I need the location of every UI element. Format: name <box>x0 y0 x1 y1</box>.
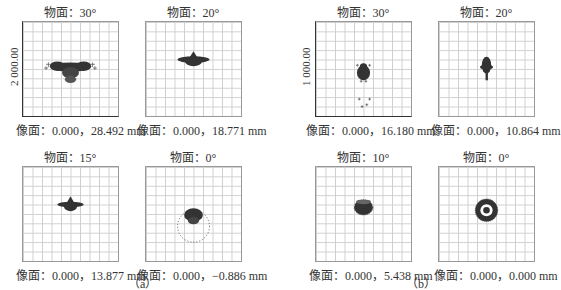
subfigure-label-a: （a） <box>128 274 157 290</box>
subfigure-label-b: （b） <box>406 274 436 290</box>
spot-pattern-ring-with-blob <box>146 167 241 261</box>
spot-diagram <box>315 166 412 262</box>
spot-diagram <box>22 21 119 117</box>
plot-title: 物面：20° <box>438 3 534 21</box>
spot-diagram <box>438 21 535 117</box>
spot-diagram <box>315 21 412 117</box>
plot-title: 物面：15° <box>22 148 118 166</box>
plot-caption: 像面：0.000，13.877 mm <box>16 266 146 284</box>
spot-diagram <box>22 166 119 262</box>
plot-caption: 像面：0.000，0.000 mm <box>434 266 558 284</box>
spot-diagram <box>145 21 242 117</box>
plot-caption: 像面：0.000，28.492 mm <box>16 121 146 139</box>
plot-title: 物面：0° <box>145 148 241 166</box>
plot-caption: 像面：0.000，16.180 mm <box>306 121 436 139</box>
y-scale-label: 2 000.00 <box>8 48 20 87</box>
spot-pattern-blob-with-tail-points <box>316 22 411 116</box>
plot-caption: 像面：0.000，18.771 mm <box>137 121 267 139</box>
plot-title: 物面：10° <box>315 148 411 166</box>
spot-pattern-wing-small <box>23 167 118 261</box>
plot-title: 物面：30° <box>22 3 118 21</box>
plot-title: 物面：0° <box>438 148 534 166</box>
spot-pattern-barrel <box>316 167 411 261</box>
spot-diagram <box>145 166 242 262</box>
y-scale-label: 1 000.00 <box>300 48 312 87</box>
spot-diagram <box>438 166 535 262</box>
spot-pattern-vertical-spindle <box>439 22 534 116</box>
spot-pattern-wing <box>146 22 241 116</box>
plot-caption: 像面：0.000，10.864 mm <box>431 121 561 139</box>
spot-pattern-wing-with-tail <box>23 22 118 116</box>
plot-title: 物面：20° <box>145 3 241 21</box>
spot-pattern-donut <box>439 167 534 261</box>
plot-title: 物面：30° <box>315 3 411 21</box>
